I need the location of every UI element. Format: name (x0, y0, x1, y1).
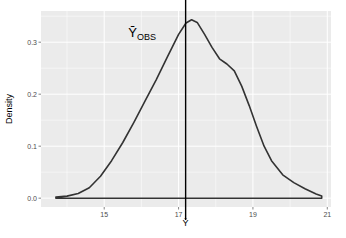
x-tick-label: 17 (175, 211, 183, 218)
y-tick-label: 0.1 (27, 143, 37, 150)
x-axis-ticks: 15171921 (100, 207, 331, 218)
y-axis-ticks: 0.00.10.20.3 (27, 39, 41, 202)
x-tick-label: 21 (323, 211, 331, 218)
y-axis-title: Density (4, 93, 14, 124)
x-axis-title: Ȳ (183, 218, 189, 228)
annotation-main: Ȳ (128, 25, 137, 40)
annotation-subscript: OBS (137, 32, 156, 42)
y-tick-label: 0.2 (27, 91, 37, 98)
y-tick-label: 0.0 (27, 195, 37, 202)
x-tick-label: 15 (100, 211, 108, 218)
x-tick-label: 19 (249, 211, 257, 218)
y-tick-label: 0.3 (27, 39, 37, 46)
density-chart: ȲOBS 0.00.10.20.3 15171921 Density Ȳ (0, 0, 346, 238)
